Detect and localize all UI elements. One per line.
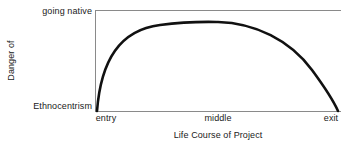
x-tick-label-entry: entry: [86, 113, 126, 124]
y-axis-title: Danger of: [6, 31, 17, 91]
x-tick-label-exit: exit: [316, 113, 346, 124]
x-tick-label-middle: middle: [198, 113, 238, 124]
y-tick-label-top: going native: [0, 6, 92, 17]
chart-figure: going native Ethnocentrism Danger of ent…: [0, 0, 352, 147]
danger-curve: [97, 22, 338, 111]
y-tick-label-bottom: Ethnocentrism: [0, 101, 92, 112]
x-axis-title: Life Course of Project: [96, 130, 340, 141]
plot-area: [0, 0, 352, 147]
